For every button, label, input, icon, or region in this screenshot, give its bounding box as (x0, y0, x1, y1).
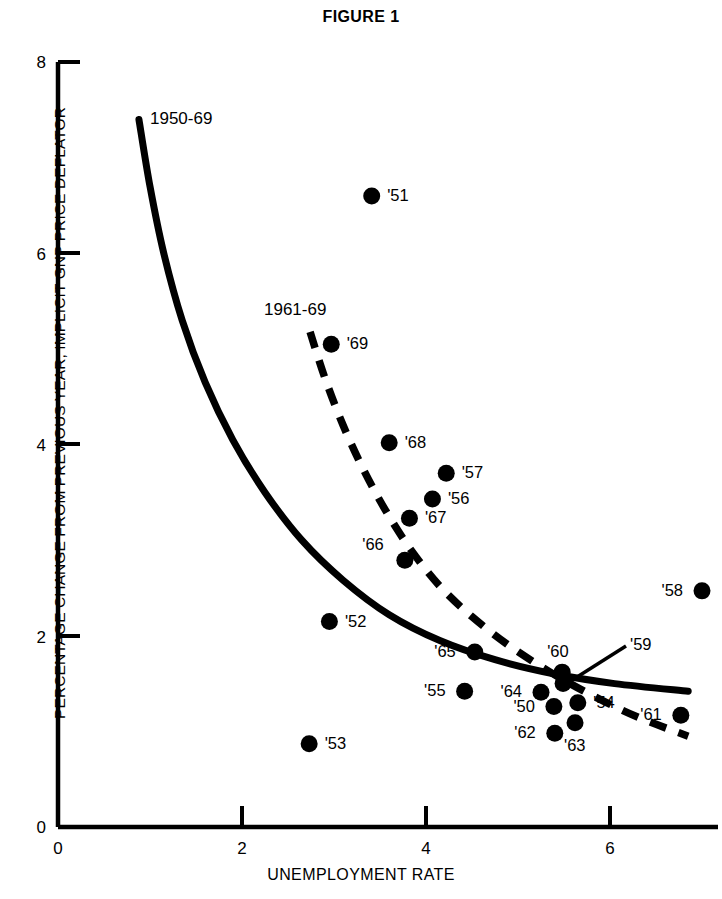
x-axis-ticks (242, 806, 610, 827)
data-point-52 (321, 613, 338, 630)
data-point-label-57: '57 (462, 464, 484, 481)
data-point-51 (363, 188, 380, 205)
data-point-label-59: '59 (630, 636, 652, 653)
data-point-62 (546, 725, 563, 742)
data-point-label-65: '65 (434, 643, 456, 660)
data-point-label-64: '64 (501, 683, 523, 700)
data-point-label-68: '68 (405, 434, 427, 451)
data-point-56 (424, 491, 441, 508)
data-point-63 (567, 714, 584, 731)
data-point-label-69: '69 (347, 335, 369, 352)
data-point-60 (554, 664, 571, 681)
curve-1950-69 (139, 120, 688, 692)
data-point-label-63: '63 (564, 737, 586, 754)
figure-container: FIGURE 1 PERCENTAGE CHANGE FROM PREVIOUS… (0, 0, 722, 899)
data-point-label-66: '66 (362, 536, 384, 553)
data-point-label-67: '67 (425, 509, 447, 526)
data-point-label-62: '62 (514, 724, 536, 741)
data-point-label-51: '51 (387, 187, 409, 204)
data-point-50 (545, 698, 562, 715)
data-point-68 (381, 434, 398, 451)
data-point-61 (672, 707, 689, 724)
data-point-label-61: '61 (640, 706, 662, 723)
data-point-label-54: '54 (593, 694, 615, 711)
data-point-54 (569, 694, 586, 711)
data-point-66 (396, 552, 413, 569)
scatter-markers (301, 188, 711, 753)
data-point-67 (401, 510, 418, 527)
data-point-label-53: '53 (325, 735, 347, 752)
data-point-label-58: '58 (662, 582, 684, 599)
data-point-53 (301, 735, 318, 752)
data-point-57 (438, 465, 455, 482)
data-point-label-55: '55 (424, 682, 446, 699)
data-point-69 (323, 336, 340, 353)
data-point-label-56: '56 (448, 490, 470, 507)
plot-area (0, 0, 722, 899)
data-point-label-52: '52 (345, 613, 367, 630)
curve-1961-69 (310, 332, 688, 736)
data-point-64 (533, 684, 550, 701)
data-point-65 (466, 644, 483, 661)
data-point-55 (456, 683, 473, 700)
y-axis-ticks (58, 62, 80, 636)
data-point-label-60: '60 (547, 643, 569, 660)
data-point-58 (694, 582, 711, 599)
